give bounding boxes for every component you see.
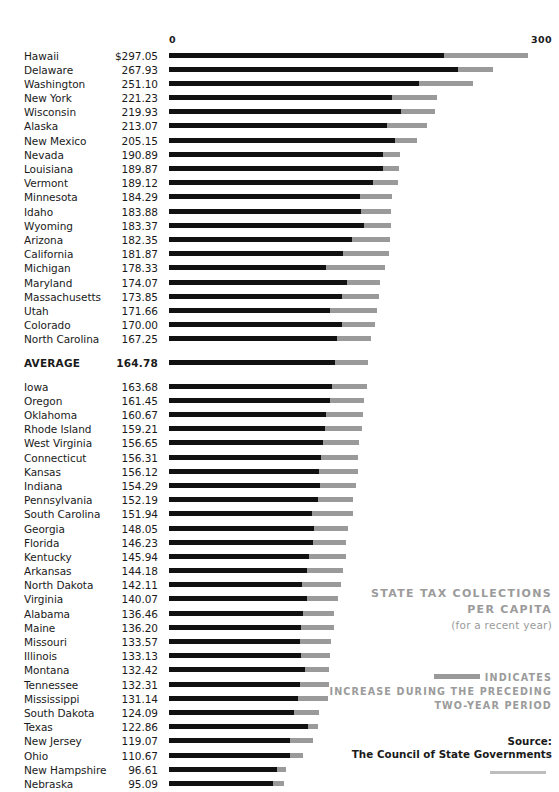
row-bar-base-segment [169, 360, 335, 365]
row-bar [169, 440, 532, 445]
row-bar [169, 639, 532, 644]
row-bar-base-segment [169, 440, 323, 445]
row-bar-base-segment [169, 781, 273, 786]
row-bar-base-segment [169, 53, 444, 58]
legend-label-indicates: INDICATES [485, 672, 552, 683]
row-state-name: Illinois [24, 650, 57, 662]
row-bar-base-segment [169, 123, 387, 128]
table-row: West Virginia156.65 [0, 438, 559, 452]
source-label: Source: [508, 735, 552, 747]
source-note: Source: The Council of State Governments [222, 735, 552, 760]
table-row: Kentucky145.94 [0, 551, 559, 565]
row-state-name: Virginia [24, 593, 63, 605]
table-row: Massachusetts173.85 [0, 291, 559, 305]
row-bar-base-segment [169, 483, 320, 488]
row-state-name: Iowa [24, 381, 48, 393]
row-bar [169, 412, 532, 417]
row-value: 181.87 [72, 248, 158, 260]
row-state-name: Vermont [24, 177, 68, 189]
table-row: Iowa163.68 [0, 381, 559, 395]
row-value: 159.21 [72, 423, 158, 435]
row-bar [169, 53, 532, 58]
table-row: Indiana154.29 [0, 480, 559, 494]
row-bar [169, 322, 532, 327]
row-bar [169, 568, 532, 573]
row-bar-base-segment [169, 426, 325, 431]
chart-title-line1: STATE TAX COLLECTIONS [371, 587, 552, 600]
row-value: 156.12 [72, 466, 158, 478]
row-bar-base-segment [169, 724, 308, 729]
row-value: 146.23 [72, 537, 158, 549]
row-state-name: Colorado [24, 319, 71, 331]
row-value: 161.45 [72, 395, 158, 407]
table-row: Arizona182.35 [0, 234, 559, 248]
row-bar-base-segment [169, 194, 360, 199]
row-bar-base-segment [169, 237, 352, 242]
table-row: Minnesota184.29 [0, 192, 559, 206]
legend-swatch-increase [434, 674, 480, 679]
row-state-name: Delaware [24, 64, 73, 76]
row-bar-base-segment [169, 455, 321, 460]
row-value: 140.07 [72, 593, 158, 605]
table-row: Idaho183.88 [0, 206, 559, 220]
legend-label-line3: TWO-YEAR PERIOD [434, 700, 552, 711]
row-state-name: Alaska [24, 120, 58, 132]
row-state-name: California [24, 248, 73, 260]
row-bar-base-segment [169, 67, 458, 72]
legend-label-line2: INCREASE DURING THE PRECEDING [329, 686, 552, 697]
table-row: California181.87 [0, 249, 559, 263]
row-bar [169, 469, 532, 474]
row-state-name: Oklahoma [24, 409, 77, 421]
row-value: 156.65 [72, 437, 158, 449]
row-bar-base-segment [169, 322, 342, 327]
row-value: 133.57 [72, 636, 158, 648]
row-bar [169, 426, 532, 431]
row-value: 124.09 [72, 707, 158, 719]
row-bar-base-segment [169, 398, 330, 403]
row-state-name: Minnesota [24, 191, 78, 203]
row-bar-base-segment [169, 384, 332, 389]
row-state-name: Wyoming [24, 220, 73, 232]
table-row: Oregon161.45 [0, 395, 559, 409]
row-bar [169, 781, 532, 786]
row-bar-base-segment [169, 653, 301, 658]
table-row: New York221.23 [0, 93, 559, 107]
row-bar [169, 123, 532, 128]
row-state-name: Oregon [24, 395, 62, 407]
row-state-name: Kentucky [24, 551, 72, 563]
table-row: Wyoming183.37 [0, 220, 559, 234]
table-row: Texas122.86 [0, 722, 559, 736]
row-state-name: Tennessee [24, 679, 78, 691]
row-value: 156.31 [72, 452, 158, 464]
row-bar [169, 251, 532, 256]
row-value: 131.14 [72, 693, 158, 705]
row-bar-base-segment [169, 109, 401, 114]
row-value: 205.15 [72, 135, 158, 147]
row-bar [169, 767, 532, 772]
row-value: 183.88 [72, 206, 158, 218]
row-value: 136.46 [72, 608, 158, 620]
chart-subtitle: (for a recent year) [252, 617, 552, 634]
chart-title-line2: PER CAPITA [467, 603, 552, 616]
table-row: Illinois133.13 [0, 651, 559, 665]
row-bar [169, 265, 532, 270]
row-value: 173.85 [72, 291, 158, 303]
row-state-name: Hawaii [24, 50, 59, 62]
row-bar-base-segment [169, 223, 364, 228]
table-row: Louisiana189.87 [0, 164, 559, 178]
row-value: 171.66 [72, 305, 158, 317]
row-state-name: Indiana [24, 480, 63, 492]
row-bar-base-segment [169, 540, 313, 545]
row-bar [169, 724, 532, 729]
row-value: 251.10 [72, 78, 158, 90]
table-row: Nebraska95.09 [0, 778, 559, 792]
row-bar [169, 209, 532, 214]
row-state-name: Idaho [24, 206, 53, 218]
table-row: Vermont189.12 [0, 178, 559, 192]
row-value: 170.00 [72, 319, 158, 331]
row-bar [169, 308, 532, 313]
row-value: $297.05 [72, 50, 158, 62]
row-bar [169, 526, 532, 531]
table-row: Michigan178.33 [0, 263, 559, 277]
table-row-average: AVERAGE164.78 [0, 357, 559, 371]
